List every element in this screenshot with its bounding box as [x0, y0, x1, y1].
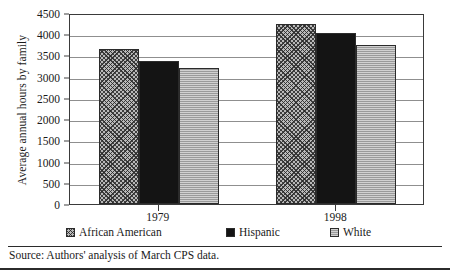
figure-container: Average annual hours by family 050010001… — [0, 0, 450, 272]
bar-hispanic-1979 — [139, 61, 179, 204]
legend-item-label: African American — [79, 226, 162, 238]
y-axis-tick-label: 500 — [43, 178, 60, 190]
source-note: Source: Authors' analysis of March CPS d… — [9, 249, 219, 261]
legend-item-white[interactable]: White — [330, 226, 371, 238]
legend-swatch-icon — [226, 228, 235, 237]
bar-african-american-1979 — [99, 49, 139, 204]
y-axis-tick-labels: 050010001500200025003000350040004500 — [18, 14, 64, 205]
legend-item-label: Hispanic — [239, 226, 280, 238]
legend-item-african-american[interactable]: African American — [66, 226, 162, 238]
y-axis-tick-label: 1500 — [37, 135, 60, 147]
bar-white-1979 — [179, 68, 219, 204]
plot-area — [69, 14, 424, 205]
y-axis-tick-label: 2500 — [37, 93, 60, 105]
bottom-divider — [0, 268, 450, 270]
y-axis-tick-label: 3000 — [37, 72, 60, 84]
legend-item-label: White — [343, 226, 371, 238]
y-axis-tick-label: 1000 — [37, 157, 60, 169]
y-axis-tick-label: 0 — [54, 199, 60, 211]
legend-swatch-icon — [330, 228, 339, 237]
chart-area: Average annual hours by family 050010001… — [0, 0, 450, 215]
legend-item-hispanic[interactable]: Hispanic — [226, 226, 280, 238]
bar-hispanic-1998 — [316, 33, 356, 204]
legend-swatch-icon — [66, 228, 75, 237]
chart-legend: African AmericanHispanicWhite — [0, 226, 450, 243]
y-axis-tick-label: 4500 — [37, 8, 60, 20]
bar-white-1998 — [356, 45, 396, 204]
y-axis-tick-label: 4000 — [37, 29, 60, 41]
source-divider — [8, 246, 442, 247]
x-axis-category-label-1979: 1979 — [146, 211, 169, 223]
y-axis-tick-label: 3500 — [37, 50, 60, 62]
gridline — [70, 36, 423, 37]
x-axis-category-label-1998: 1998 — [324, 211, 347, 223]
bar-african-american-1998 — [276, 24, 316, 204]
y-axis-tick-label: 2000 — [37, 114, 60, 126]
